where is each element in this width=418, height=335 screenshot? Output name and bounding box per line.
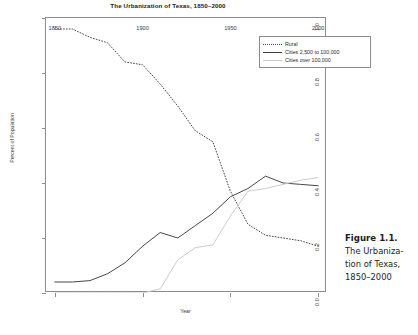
series-line-1: [55, 176, 318, 282]
legend-item-cities-small: Cities 2,500 to 100,000: [263, 48, 366, 56]
series-line-2: [55, 178, 318, 294]
y-tick-label: 0.4: [314, 182, 320, 202]
x-tick-mark: [143, 293, 144, 297]
figure-page: The Urbanization of Texas, 1850–2000 Per…: [0, 0, 418, 335]
y-axis-label: Percent of Population: [7, 0, 17, 275]
y-tick-label: 0.6: [314, 127, 320, 147]
x-tick-mark: [55, 293, 56, 297]
legend-label-rural: Rural: [285, 41, 298, 47]
y-tick-mark: [42, 238, 46, 239]
legend-item-rural: Rural: [263, 40, 366, 48]
legend-label-cities-large: Cities over 100,000: [285, 57, 331, 63]
chart-title: The Urbanization of Texas, 1850–2000: [0, 2, 336, 9]
y-tick-mark: [42, 128, 46, 129]
y-tick-mark: [42, 183, 46, 184]
y-tick-mark: [42, 73, 46, 74]
y-tick-mark: [42, 293, 46, 294]
x-tick-label: 1850: [49, 25, 61, 31]
y-axis-label-text: Percent of Population: [9, 113, 15, 163]
caption-line-3: 1850–2000: [345, 271, 417, 284]
y-tick-label: 0.2: [314, 237, 320, 257]
legend-key-light-icon: [263, 57, 282, 64]
x-tick-label: 1900: [136, 25, 148, 31]
plot-area: Rural Cities 2,500 to 100,000 Cities ove…: [45, 17, 326, 292]
caption-line-1: The Urbaniza-: [345, 245, 417, 258]
y-tick-mark: [42, 18, 46, 19]
legend-label-cities-small: Cities 2,500 to 100,000: [285, 49, 339, 55]
caption-figure-number: Figure 1.1.: [345, 232, 417, 245]
legend-key-solid-icon: [263, 49, 282, 56]
x-tick-mark: [318, 293, 319, 297]
figure-caption: Figure 1.1. The Urbaniza- tion of Texas,…: [345, 232, 417, 284]
caption-line-2: tion of Texas,: [345, 258, 417, 271]
x-axis-label: Year: [45, 308, 326, 314]
y-tick-label: 0.8: [314, 72, 320, 92]
legend-key-dotted-icon: [263, 41, 282, 48]
x-tick-label: 2000: [312, 25, 324, 31]
x-tick-label: 1950: [224, 25, 236, 31]
legend-item-cities-large: Cities over 100,000: [263, 56, 366, 64]
chart-legend: Rural Cities 2,500 to 100,000 Cities ove…: [259, 36, 371, 68]
chart-figure: The Urbanization of Texas, 1850–2000 Per…: [0, 0, 336, 335]
x-tick-mark: [230, 293, 231, 297]
